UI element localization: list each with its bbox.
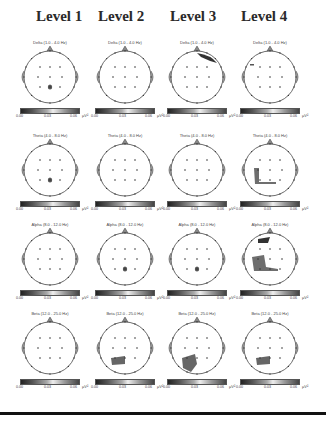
topomap-delta-level-4: Delta (1.0 - 4.0 Hz) 0.00 0.03 0.06 μV² <box>232 40 308 132</box>
tick-min: 0.00 <box>91 207 98 211</box>
topomap-theta-level-4: Theta (4.0 - 8.0 Hz) 0.00 0.03 0.06 μV² <box>232 133 308 225</box>
tick-min: 0.00 <box>163 296 170 300</box>
colorbar-ticks: 0.00 0.03 0.06 <box>16 207 82 212</box>
colorbar-ticks: 0.00 0.03 0.06 <box>91 114 157 119</box>
colorbar-unit: μV² <box>302 384 308 389</box>
tick-min: 0.00 <box>91 296 98 300</box>
tick-mid: 0.03 <box>264 207 271 211</box>
tick-max: 0.06 <box>70 385 77 389</box>
tick-mid: 0.03 <box>264 296 271 300</box>
colorbar-unit: μV² <box>302 295 308 300</box>
level-1-header: Level 1 <box>36 8 82 25</box>
tick-mid: 0.03 <box>119 114 126 118</box>
colorbar-ticks: 0.00 0.03 0.06 <box>236 296 302 301</box>
tick-mid: 0.03 <box>119 207 126 211</box>
tick-mid: 0.03 <box>44 207 51 211</box>
tick-min: 0.00 <box>91 385 98 389</box>
colorbar-ticks: 0.00 0.03 0.06 <box>163 207 229 212</box>
tick-mid: 0.03 <box>44 296 51 300</box>
topomap-theta-level-1: Theta (4.0 - 8.0 Hz) 0.00 0.03 0.06 μV² <box>12 133 88 225</box>
topomap-theta-level-3: Theta (4.0 - 8.0 Hz) 0.00 0.03 0.06 μV² <box>159 133 235 225</box>
colorbar-ticks: 0.00 0.03 0.06 <box>91 207 157 212</box>
tick-min: 0.00 <box>163 207 170 211</box>
tick-min: 0.00 <box>16 114 23 118</box>
tick-max: 0.06 <box>70 114 77 118</box>
colorbar-ticks: 0.00 0.03 0.06 <box>163 385 229 390</box>
tick-mid: 0.03 <box>119 385 126 389</box>
tick-min: 0.00 <box>163 385 170 389</box>
tick-mid: 0.03 <box>119 296 126 300</box>
tick-max: 0.06 <box>70 207 77 211</box>
tick-max: 0.06 <box>70 296 77 300</box>
tick-mid: 0.03 <box>191 207 198 211</box>
colorbar-ticks: 0.00 0.03 0.06 <box>236 385 302 390</box>
tick-mid: 0.03 <box>44 385 51 389</box>
tick-mid: 0.03 <box>264 114 271 118</box>
tick-mid: 0.03 <box>191 296 198 300</box>
tick-mid: 0.03 <box>191 114 198 118</box>
tick-mid: 0.03 <box>191 385 198 389</box>
topomap-alpha-level-2: Alpha (8.0 - 12.0 Hz) 0.00 0.03 0.06 μV² <box>87 222 163 314</box>
tick-max: 0.06 <box>145 207 152 211</box>
topomap-beta-level-4: Beta (12.0 - 25.0 Hz) 0.00 0.03 0.06 μV² <box>232 311 308 403</box>
tick-max: 0.06 <box>145 385 152 389</box>
tick-min: 0.00 <box>16 385 23 389</box>
colorbar-ticks: 0.00 0.03 0.06 <box>16 296 82 301</box>
level-headers: Level 1 Level 2 Level 3 Level 4 <box>0 8 326 32</box>
topomap-alpha-level-4: Alpha (8.0 - 12.0 Hz) 0.00 0.03 0.06 μV² <box>232 222 308 314</box>
colorbar-ticks: 0.00 0.03 0.06 <box>236 114 302 119</box>
tick-min: 0.00 <box>236 296 243 300</box>
tick-mid: 0.03 <box>264 385 271 389</box>
tick-min: 0.00 <box>236 114 243 118</box>
topomap-beta-level-1: Beta (12.0 - 25.0 Hz) 0.00 0.03 0.06 μV² <box>12 311 88 403</box>
tick-max: 0.06 <box>290 385 297 389</box>
topomap-delta-level-1: Delta (1.0 - 4.0 Hz) 0.00 0.03 0.06 μV² <box>12 40 88 132</box>
tick-max: 0.06 <box>145 114 152 118</box>
tick-min: 0.00 <box>236 207 243 211</box>
tick-max: 0.06 <box>290 296 297 300</box>
bottom-rule <box>0 412 326 415</box>
colorbar-ticks: 0.00 0.03 0.06 <box>91 296 157 301</box>
topomap-alpha-level-1: Alpha (8.0 - 12.0 Hz) 0.00 0.03 0.06 μV² <box>12 222 88 314</box>
colorbar-ticks: 0.00 0.03 0.06 <box>163 114 229 119</box>
tick-max: 0.06 <box>217 296 224 300</box>
topomap-theta-level-2: Theta (4.0 - 8.0 Hz) 0.00 0.03 0.06 μV² <box>87 133 163 225</box>
tick-min: 0.00 <box>163 114 170 118</box>
tick-max: 0.06 <box>217 207 224 211</box>
colorbar-unit: μV² <box>302 113 308 118</box>
topomap-beta-level-2: Beta (12.0 - 25.0 Hz) 0.00 0.03 0.06 μV² <box>87 311 163 403</box>
level-3-header: Level 3 <box>170 8 216 25</box>
colorbar-ticks: 0.00 0.03 0.06 <box>91 385 157 390</box>
level-2-header: Level 2 <box>98 8 144 25</box>
topomap-delta-level-2: Delta (1.0 - 4.0 Hz) 0.00 0.03 0.06 μV² <box>87 40 163 132</box>
tick-min: 0.00 <box>236 385 243 389</box>
tick-max: 0.06 <box>290 207 297 211</box>
colorbar-ticks: 0.00 0.03 0.06 <box>16 385 82 390</box>
tick-max: 0.06 <box>217 114 224 118</box>
topomap-alpha-level-3: Alpha (8.0 - 12.0 Hz) 0.00 0.03 0.06 μV² <box>159 222 235 314</box>
tick-min: 0.00 <box>16 296 23 300</box>
colorbar-ticks: 0.00 0.03 0.06 <box>16 114 82 119</box>
colorbar-ticks: 0.00 0.03 0.06 <box>236 207 302 212</box>
tick-max: 0.06 <box>145 296 152 300</box>
tick-min: 0.00 <box>16 207 23 211</box>
tick-mid: 0.03 <box>44 114 51 118</box>
tick-min: 0.00 <box>91 114 98 118</box>
topomap-delta-level-3: Delta (1.0 - 4.0 Hz) 0.00 0.03 0.06 μV² <box>159 40 235 132</box>
colorbar-ticks: 0.00 0.03 0.06 <box>163 296 229 301</box>
topomap-beta-level-3: Beta (12.0 - 25.0 Hz) 0.00 0.03 0.06 μV² <box>159 311 235 403</box>
level-4-header: Level 4 <box>241 8 287 25</box>
colorbar-unit: μV² <box>302 206 308 211</box>
tick-max: 0.06 <box>217 385 224 389</box>
tick-max: 0.06 <box>290 114 297 118</box>
